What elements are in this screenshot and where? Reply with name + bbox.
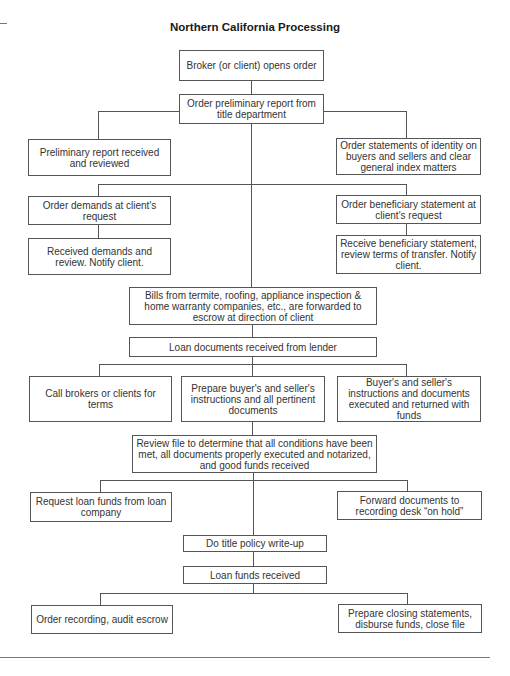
connector (253, 551, 254, 566)
node-loan-funds-received: Loan funds received (183, 566, 327, 584)
node-receive-beneficiary: Receive beneficiary statement, review te… (336, 235, 481, 274)
connector (100, 593, 101, 605)
node-order-beneficiary: Order beneficiary statement at client's … (336, 195, 481, 224)
connector (406, 111, 407, 138)
node-broker-opens: Broker (or client) opens order (179, 50, 324, 81)
node-request-loan-funds: Request loan funds from loan company (30, 492, 172, 522)
connector (407, 480, 408, 491)
connector (100, 480, 408, 481)
connector (98, 184, 99, 196)
node-prelim-received: Preliminary report received and reviewed (28, 139, 171, 176)
node-prepare-instructions: Prepare buyer's and seller's instruction… (181, 376, 325, 422)
node-prepare-closing: Prepare closing statements, disburse fun… (338, 604, 482, 633)
node-loan-docs-received: Loan documents received from lender (129, 337, 377, 357)
connector (251, 80, 252, 94)
node-forward-documents: Forward documents to recording desk “on … (337, 491, 482, 520)
node-bills: Bills from termite, roofing, appliance i… (129, 287, 377, 325)
connector (98, 111, 99, 139)
connector (253, 472, 254, 535)
node-received-demands: Received demands and review. Notify clie… (28, 238, 171, 275)
connector (406, 364, 407, 376)
node-order-demands: Order demands at client's request (28, 196, 171, 225)
node-instructions-executed: Buyer's and seller's instructions and do… (337, 376, 481, 422)
bottom-rule (0, 657, 490, 658)
connector (98, 224, 99, 238)
node-order-prelim: Order preliminary report from title depa… (179, 94, 324, 124)
connector (252, 356, 253, 376)
node-call-brokers: Call brokers or clients for terms (29, 376, 172, 422)
node-title-policy: Do title policy write-up (183, 535, 327, 552)
connector (406, 223, 407, 235)
connector (100, 480, 101, 492)
connector (100, 593, 408, 594)
diagram-title: Northern California Processing (0, 21, 510, 33)
connector (323, 111, 407, 112)
node-order-recording: Order recording, audit escrow (31, 605, 173, 634)
connector (253, 583, 254, 593)
connector (251, 123, 252, 287)
connector (252, 324, 253, 337)
connector (407, 593, 408, 604)
connector (99, 364, 407, 365)
connector (252, 421, 253, 435)
node-order-statements-identity: Order statements of identity on buyers a… (336, 138, 481, 175)
connector (98, 111, 179, 112)
connector (99, 364, 100, 376)
node-review-file: Review file to determine that all condit… (132, 435, 377, 473)
connector (98, 184, 407, 185)
connector (406, 184, 407, 195)
